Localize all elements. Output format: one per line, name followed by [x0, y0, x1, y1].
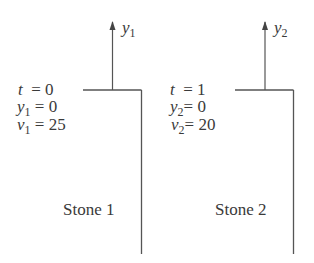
y-value: = 0	[35, 97, 57, 116]
stone-1-arrowhead-icon	[110, 21, 116, 30]
v-var: v	[17, 115, 25, 134]
stone-2-v-eq: v2= 20	[171, 116, 215, 135]
stone-2-arrowhead-icon	[262, 21, 268, 30]
y-var: y	[170, 97, 178, 116]
y-value: = 0	[184, 97, 206, 116]
v-sub: 1	[25, 123, 31, 137]
stone-1-label: Stone 1	[63, 200, 114, 220]
stone-2-axis-label: y2	[274, 18, 288, 38]
axis-var: y	[122, 18, 130, 37]
axis-sub: 2	[282, 26, 288, 40]
axis-var: y	[274, 18, 282, 37]
stone-2-label: Stone 2	[215, 200, 266, 220]
stone-1-axis-label: y1	[122, 18, 136, 38]
v-var: v	[171, 115, 179, 134]
stone-1-v-eq: v1 = 25	[17, 116, 66, 135]
v-sub: 2	[179, 123, 185, 137]
v-value: = 25	[35, 115, 66, 134]
v-value: = 20	[185, 115, 216, 134]
axis-sub: 1	[130, 26, 136, 40]
y-var: y	[17, 97, 25, 116]
